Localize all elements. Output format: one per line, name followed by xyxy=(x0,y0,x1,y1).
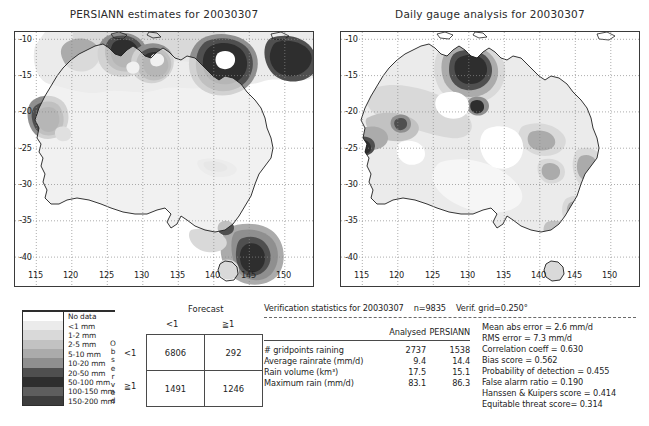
verif-row-maxrain: Maximum rain (mm/d) 83.1 86.3 xyxy=(264,378,474,389)
legend-row: 150-200 mm xyxy=(22,397,115,406)
lat-tick-neg10: -10 xyxy=(19,34,32,44)
legend-label: <1 mm xyxy=(68,322,95,331)
cell-hits-lt1-lt1: 6806 xyxy=(147,335,205,371)
lon-tick-125: 125 xyxy=(99,270,114,280)
lat-tick-neg15: -15 xyxy=(19,70,32,80)
verif-blank-header xyxy=(264,327,382,338)
verif-heading-row: Verification statistics for 20030307 n=9… xyxy=(264,303,644,314)
verif-label-gridpoints: # gridpoints raining xyxy=(264,345,382,356)
lon-tick-145-r: 145 xyxy=(567,270,582,280)
verif-label-rainrate: Average rainrate (mm/d) xyxy=(264,356,382,367)
panel-gauge: Daily gauge analysis for 20030307 xyxy=(340,8,640,293)
verif-persiann-rainrate: 14.4 xyxy=(426,356,470,367)
verif-label-volume: Rain volume (km³) xyxy=(264,367,382,378)
panel-title-gauge: Daily gauge analysis for 20030307 xyxy=(340,8,640,20)
lat-tick-neg25: -25 xyxy=(19,143,32,153)
lat-tick-neg35: -35 xyxy=(19,215,32,225)
lat-tick-neg30-r: -30 xyxy=(345,179,358,189)
verif-header-analysed: Analysed xyxy=(382,327,426,338)
verif-analysed-volume: 17.5 xyxy=(382,367,426,378)
verif-row-rainrate: Average rainrate (mm/d) 9.4 14.4 xyxy=(264,356,474,367)
verif-persiann-gridpoints: 1538 xyxy=(426,345,470,356)
map-frame-gauge: -10 -15 -20 -25 -30 -35 -40 115 120 125 … xyxy=(340,31,640,287)
observed-row-label-lt1: <1 xyxy=(124,348,136,358)
observed-letter-d: d xyxy=(109,397,117,405)
score-ets: Equitable threat score= 0.314 xyxy=(482,399,616,410)
score-bias: Bias score = 0.562 xyxy=(482,355,616,366)
verif-header-rule xyxy=(264,340,470,341)
lon-tick-135-r: 135 xyxy=(496,270,511,280)
legend-rows: No data<1 mm1-2 mm2-5 mm5-10 mm10-20 mm2… xyxy=(22,312,115,406)
lat-tick-neg35-r: -35 xyxy=(345,215,358,225)
legend-label: 2-5 mm xyxy=(68,340,96,349)
table-row: 6806 292 xyxy=(147,335,263,371)
lon-tick-130: 130 xyxy=(134,270,149,280)
lon-tick-135: 135 xyxy=(170,270,185,280)
table-row: 1491 1246 xyxy=(147,371,263,407)
lat-tick-neg15-r: -15 xyxy=(345,70,358,80)
cell-falsealarm-lt1-ge1: 292 xyxy=(205,335,263,371)
verif-compare-table: Analysed PERSIANN # gridpoints raining 2… xyxy=(264,320,474,410)
lon-tick-150-r: 150 xyxy=(602,270,617,280)
legend-label: 150-200 mm xyxy=(68,397,115,406)
lon-tick-145: 145 xyxy=(241,270,256,280)
map-frame-persiann: -10 -15 -20 -25 -30 -35 -40 115 120 125 … xyxy=(14,31,314,287)
lat-tick-neg20: -20 xyxy=(19,106,32,116)
legend-label: 50-100 mm xyxy=(68,378,110,387)
lon-tick-115-r: 115 xyxy=(354,270,369,280)
score-hk: Hanssen & Kuipers score = 0.414 xyxy=(482,388,616,399)
lon-tick-120-r: 120 xyxy=(389,270,404,280)
verif-col-header-row: Analysed PERSIANN xyxy=(264,327,474,338)
legend-label: 10-20 mm xyxy=(68,359,105,368)
legend-label: 20-50 mm xyxy=(68,369,105,378)
verif-heading: Verification statistics for 20030307 xyxy=(264,303,404,314)
verif-n: n=9835 xyxy=(414,303,446,314)
score-pod: Probability of detection = 0.455 xyxy=(482,366,616,377)
legend-label: 1-2 mm xyxy=(68,331,96,340)
score-rms-error: RMS error = 7.3 mm/d xyxy=(482,333,616,344)
verif-analysed-maxrain: 83.1 xyxy=(382,378,426,389)
verif-analysed-rainrate: 9.4 xyxy=(382,356,426,367)
verif-persiann-volume: 15.1 xyxy=(426,367,470,378)
map-gauge xyxy=(341,32,639,286)
observed-axis-label: O b s e r v e d xyxy=(109,340,117,406)
lat-tick-neg40-r: -40 xyxy=(345,252,358,262)
verification-stats-block: Verification statistics for 20030307 n=9… xyxy=(264,303,644,410)
legend-label: No data xyxy=(68,312,96,321)
verif-label-maxrain: Maximum rain (mm/d) xyxy=(264,378,382,389)
rainfall-legend: No data<1 mm1-2 mm2-5 mm5-10 mm10-20 mm2… xyxy=(22,310,115,406)
verif-row-volume: Rain volume (km³) 17.5 15.1 xyxy=(264,367,474,378)
score-far: False alarm ratio = 0.190 xyxy=(482,377,616,388)
lon-tick-140: 140 xyxy=(205,270,220,280)
observed-row-label-ge1: ≧1 xyxy=(124,381,136,391)
map-persiann xyxy=(15,32,313,286)
verif-analysed-gridpoints: 2737 xyxy=(382,345,426,356)
forecast-col-label-lt1: <1 xyxy=(166,319,178,329)
lon-tick-130-r: 130 xyxy=(460,270,475,280)
lon-tick-140-r: 140 xyxy=(531,270,546,280)
legend-label: 5-10 mm xyxy=(68,350,101,359)
forecast-header-label: Forecast xyxy=(188,304,223,314)
verif-score-list: Mean abs error = 2.6 mm/d RMS error = 7.… xyxy=(482,322,616,410)
lon-tick-120: 120 xyxy=(63,270,78,280)
lat-tick-neg30: -30 xyxy=(19,179,32,189)
lat-tick-neg20-r: -20 xyxy=(345,106,358,116)
score-correlation: Correlation coeff = 0.630 xyxy=(482,344,616,355)
verif-grid: Verif. grid=0.250° xyxy=(456,303,528,314)
panel-title-persiann: PERSIANN estimates for 20030307 xyxy=(14,8,314,20)
panel-persiann: PERSIANN estimates for 20030307 xyxy=(14,8,314,293)
lon-tick-150: 150 xyxy=(276,270,291,280)
contingency-table: 6806 292 1491 1246 xyxy=(146,334,263,407)
lat-tick-neg25-r: -25 xyxy=(345,143,358,153)
lat-tick-neg40: -40 xyxy=(19,252,32,262)
verif-divider-top xyxy=(264,317,636,318)
verif-header-persiann: PERSIANN xyxy=(426,327,470,338)
lon-tick-125-r: 125 xyxy=(425,270,440,280)
lat-tick-neg10-r: -10 xyxy=(345,34,358,44)
verif-row-gridpoints: # gridpoints raining 2737 1538 xyxy=(264,345,474,356)
lon-tick-115: 115 xyxy=(28,270,43,280)
forecast-col-label-ge1: ≧1 xyxy=(222,319,234,329)
verif-persiann-maxrain: 86.3 xyxy=(426,378,470,389)
cell-hits-ge1-ge1: 1246 xyxy=(205,371,263,407)
score-mean-abs-error: Mean abs error = 2.6 mm/d xyxy=(482,322,616,333)
